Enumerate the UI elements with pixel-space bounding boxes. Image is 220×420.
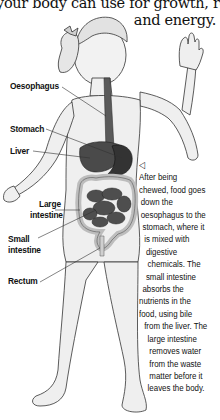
label-small-intestine: Small intestine xyxy=(8,233,41,255)
caption-line-2: chewed, food goes xyxy=(139,184,211,196)
caption-line-3: down the xyxy=(139,196,211,208)
label-large-intestine-line-2: intestine xyxy=(30,209,63,220)
caption-line-18: leaves the body. xyxy=(139,382,211,394)
caption-line-12: food, using bile xyxy=(139,308,211,320)
caption-line-7: digestive xyxy=(139,246,211,258)
caption-line-16: from the waste xyxy=(139,358,211,370)
caption-line-15: removes water xyxy=(139,345,211,357)
caption-line-13: from the liver. The xyxy=(139,320,211,332)
label-rectum: Rectum xyxy=(8,275,38,286)
label-small-intestine-line-2: intestine xyxy=(8,244,41,255)
caption-line-6: is mixed with xyxy=(139,233,211,245)
label-large-intestine-line-1: Large xyxy=(30,198,63,209)
caption-line-10: absorbs the xyxy=(139,283,211,295)
figure-caption: ◁After being chewed, food goes down the … xyxy=(139,159,211,395)
label-stomach: Stomach xyxy=(10,123,44,134)
caption-line-5: stomach, where it xyxy=(139,221,211,233)
label-large-intestine: Large intestine xyxy=(30,198,63,220)
caption-line-14: large intestine xyxy=(139,333,211,345)
caption-line-4: oesophagus to the xyxy=(139,209,211,221)
rectum xyxy=(100,236,104,256)
forearm xyxy=(182,65,196,115)
label-small-intestine-line-1: Small xyxy=(8,233,41,244)
left-leg xyxy=(33,262,98,406)
raised-hand xyxy=(179,33,203,70)
caption-line-8: chemicals. The xyxy=(139,258,211,270)
left-triangle-pointer-icon: ◁ xyxy=(139,159,145,171)
caption-line-17: matter before it xyxy=(139,370,211,382)
textbook-page: your body can use for growth, repair and… xyxy=(0,0,220,420)
label-oesophagus: Oesophagus xyxy=(10,80,59,91)
caption-line-11: nutrients in the xyxy=(139,295,211,307)
label-liver: Liver xyxy=(10,145,29,156)
caption-line-9: small intestine xyxy=(139,271,211,283)
caption-line-1: ◁After being xyxy=(139,159,211,184)
